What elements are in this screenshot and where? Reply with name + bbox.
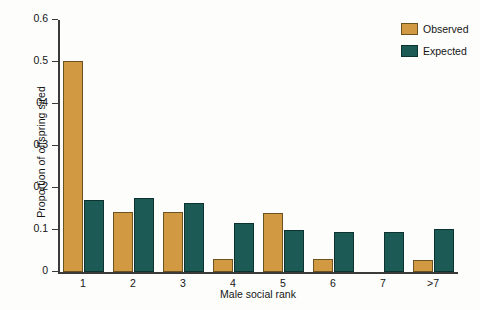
y-axis-tick-label: 0.2	[33, 180, 48, 192]
y-axis-tick: 0.5	[52, 61, 58, 62]
y-axis-tick: 0.6	[52, 19, 58, 20]
bar-chart-figure: Proportion of offspring sired 00.10.20.3…	[0, 0, 480, 310]
legend-item-expected: Expected	[401, 44, 479, 57]
y-axis-tick-label: 04	[36, 96, 48, 108]
y-axis-tick: 04	[52, 103, 58, 104]
y-axis-tick-label: 0.6	[33, 12, 48, 24]
bar-expected-rank-5	[284, 230, 304, 272]
y-axis-tick-label: 0	[42, 264, 48, 276]
bar-expected-rank-6	[334, 232, 354, 272]
y-axis-tick: 0.2	[52, 187, 58, 188]
y-axis-tick: 0	[52, 271, 58, 272]
chart-legend: ObservedExpected	[401, 22, 479, 66]
legend-swatch-observed	[401, 23, 418, 35]
x-axis-line	[58, 272, 458, 274]
bar-expected-rank-4	[234, 223, 254, 272]
y-axis-tick-label: 0.3	[33, 138, 48, 150]
x-axis-title: Male social rank	[58, 288, 458, 300]
bar-group	[263, 20, 304, 272]
bar-group	[163, 20, 204, 272]
bar-observed-rank-1	[63, 61, 83, 272]
bar-group	[113, 20, 154, 272]
bar-group	[63, 20, 104, 272]
legend-item-observed: Observed	[401, 22, 479, 35]
plot-area: 00.10.20.3040.50.6 1234567>7	[58, 20, 458, 272]
y-axis-tick-label: 0.1	[33, 222, 48, 234]
bar-expected-rank-1	[84, 200, 104, 272]
bar-group	[213, 20, 254, 272]
y-axis-line	[58, 20, 60, 272]
bar-expected-rank-2	[134, 198, 154, 272]
y-axis-tick: 0.1	[52, 229, 58, 230]
y-axis-tick: 0.3	[52, 145, 58, 146]
bar-observed-rank-4	[213, 259, 233, 272]
legend-swatch-expected	[401, 45, 418, 57]
bar-observed-rank-2	[113, 212, 133, 272]
y-axis-tick-label: 0.5	[33, 54, 48, 66]
bar-observed-rank-3	[163, 212, 183, 272]
bar-observed-rank-6	[313, 259, 333, 272]
bar-expected-rank-7	[384, 232, 404, 272]
bar-group	[363, 20, 404, 272]
bar-observed-rank-5	[263, 213, 283, 272]
bar-expected-rank->7	[434, 229, 454, 272]
bar-group	[313, 20, 354, 272]
legend-label: Expected	[423, 45, 467, 57]
legend-label: Observed	[423, 23, 469, 35]
bar-expected-rank-3	[184, 203, 204, 272]
bar-observed-rank->7	[413, 260, 433, 272]
